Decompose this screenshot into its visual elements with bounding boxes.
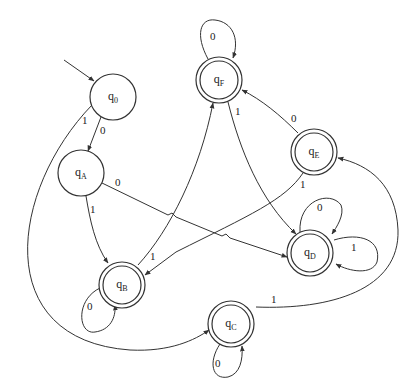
state-qB: qB bbox=[99, 262, 145, 308]
state-q0: q0 bbox=[90, 74, 136, 120]
edge-q0-qC bbox=[28, 105, 209, 350]
edge-label: 1 bbox=[82, 114, 88, 126]
edge-label: 0 bbox=[215, 357, 221, 369]
state-qD: qD bbox=[287, 230, 333, 276]
edge-label: 1 bbox=[235, 105, 241, 117]
edge-label: 0 bbox=[210, 30, 216, 42]
edge-label: 1 bbox=[300, 178, 306, 190]
edge-qA-qD bbox=[102, 183, 287, 257]
edge-qB-qF bbox=[138, 103, 213, 265]
edge-label: 0 bbox=[291, 112, 297, 124]
edge-label: 1 bbox=[90, 203, 96, 215]
edge-label: 0 bbox=[115, 176, 121, 188]
state-qE: qE bbox=[291, 129, 337, 175]
edge-label: 0 bbox=[317, 201, 323, 213]
state-qF: qF bbox=[196, 57, 242, 103]
edge-qC-qE bbox=[256, 158, 398, 307]
edge-label: 1 bbox=[150, 250, 156, 262]
edge-label: 0 bbox=[87, 300, 93, 312]
edge-qE-qB bbox=[145, 173, 303, 275]
state-qC: qC bbox=[208, 301, 254, 347]
edge-label: 1 bbox=[351, 241, 357, 253]
edge-qE-qF bbox=[242, 90, 298, 133]
state-qA: qA bbox=[58, 150, 104, 196]
start-arrow bbox=[64, 60, 94, 81]
edge-qF-qF bbox=[201, 20, 236, 59]
automaton-diagram: 0 1 0 1 0 1 0 1 0 1 0 1 0 1 q0 qA bbox=[0, 0, 414, 380]
edge-label: 1 bbox=[271, 293, 277, 305]
edge-label: 0 bbox=[100, 124, 106, 136]
